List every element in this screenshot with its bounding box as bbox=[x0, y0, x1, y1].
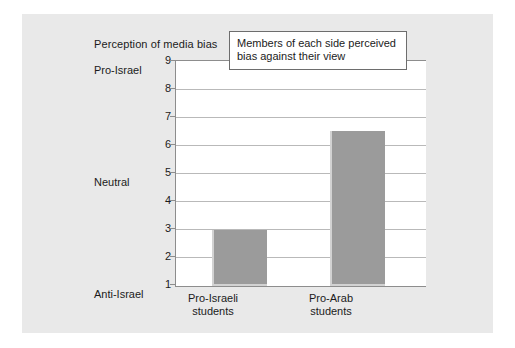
y-tick-label-5: 5 bbox=[149, 167, 171, 178]
x-category-label-pro-israeli-students: Pro-Israeli students bbox=[151, 292, 275, 318]
scale-anchor-neutral: Neutral bbox=[94, 177, 129, 188]
gridline-5 bbox=[176, 173, 426, 174]
y-tick-label-1: 1 bbox=[149, 279, 171, 290]
y-tick-label-8: 8 bbox=[149, 83, 171, 94]
scale-anchor-pro-israel: Pro-Israel bbox=[94, 65, 142, 76]
gridline-4 bbox=[176, 201, 426, 202]
x-category-label-line-1: Pro-Israeli bbox=[151, 292, 275, 305]
x-category-label-line-1: Pro-Arab bbox=[269, 292, 393, 305]
annotation-line-1: Members of each side perceived bbox=[237, 37, 399, 50]
y-tick-label-4: 4 bbox=[149, 195, 171, 206]
x-category-label-pro-arab-students: Pro-Arab students bbox=[269, 292, 393, 318]
x-category-label-line-2: students bbox=[151, 305, 275, 318]
y-tick-label-7: 7 bbox=[149, 111, 171, 122]
y-tick-label-9: 9 bbox=[149, 55, 171, 66]
annotation-line-2: bias against their view bbox=[237, 50, 399, 63]
gridline-6 bbox=[176, 145, 426, 146]
bar-pro-israeli-students[interactable] bbox=[212, 230, 267, 286]
y-tick-label-6: 6 bbox=[149, 139, 171, 150]
y-tick-label-2: 2 bbox=[149, 251, 171, 262]
y-tick-label-3: 3 bbox=[149, 223, 171, 234]
annotation-callout: Members of each side perceived bias agai… bbox=[229, 31, 407, 70]
gridline-7 bbox=[176, 117, 426, 118]
figure-card: Perception of media bias Pro-Israel Neut… bbox=[22, 14, 493, 333]
gridline-8 bbox=[176, 89, 426, 90]
x-category-label-line-2: students bbox=[269, 305, 393, 318]
chart-title: Perception of media bias bbox=[94, 38, 217, 50]
bar-pro-arab-students[interactable] bbox=[330, 131, 385, 286]
scale-anchor-anti-israel: Anti-Israel bbox=[94, 289, 144, 300]
plot-area bbox=[175, 60, 426, 287]
